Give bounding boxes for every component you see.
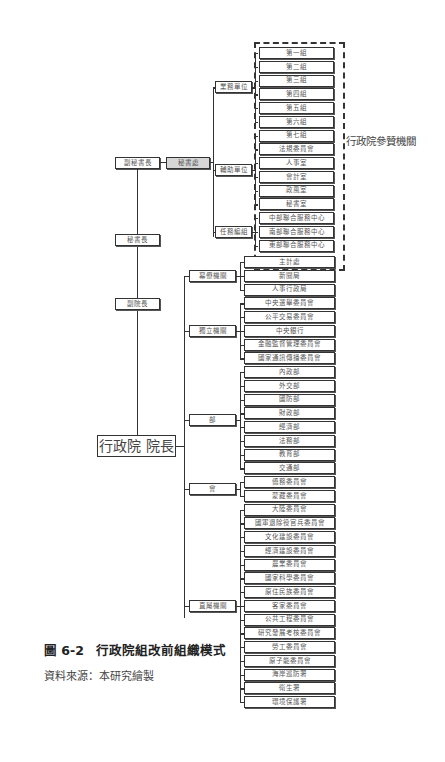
connector bbox=[213, 232, 216, 233]
connector bbox=[184, 276, 189, 277]
connector bbox=[255, 136, 256, 205]
agency-unit[interactable]: 法務部 bbox=[244, 435, 335, 447]
secretary-general-box[interactable]: 秘書長 bbox=[115, 234, 160, 246]
secretariat-unit[interactable]: 第二組 bbox=[259, 61, 334, 73]
connector bbox=[255, 149, 258, 150]
agency-unit[interactable]: 經濟部 bbox=[244, 421, 335, 433]
agency-unit[interactable]: 蒙藏委員會 bbox=[244, 490, 335, 502]
agency-unit[interactable]: 農業委員會 bbox=[244, 559, 335, 571]
vice-premier-box[interactable]: 副院長 bbox=[115, 298, 160, 310]
agency-unit[interactable]: 人事行政局 bbox=[244, 284, 335, 296]
agency-unit[interactable]: 外交部 bbox=[244, 380, 335, 392]
agency-group-0[interactable]: 幕僚機關 bbox=[189, 270, 236, 282]
secretariat-unit[interactable]: 會計室 bbox=[259, 171, 334, 183]
agency-unit[interactable]: 新聞局 bbox=[244, 270, 335, 282]
figure-source: 資料來源：本研究繪製 bbox=[44, 667, 154, 683]
connector bbox=[184, 606, 189, 607]
agency-unit[interactable]: 原住民族委員會 bbox=[244, 586, 335, 598]
secretariat-unit[interactable]: 秘書室 bbox=[259, 198, 334, 210]
connector bbox=[255, 81, 258, 82]
agency-group-3[interactable]: 會 bbox=[189, 483, 236, 495]
connector bbox=[255, 94, 258, 95]
agency-unit[interactable]: 財政部 bbox=[244, 407, 335, 419]
connector bbox=[255, 204, 258, 205]
figure-number: 圖 6-2 bbox=[44, 643, 84, 658]
agency-unit[interactable]: 國家通訊傳播委員會 bbox=[244, 352, 335, 364]
secretariat-box[interactable]: 秘書處 bbox=[166, 157, 210, 169]
secretariat-unit[interactable]: 第三組 bbox=[259, 75, 334, 87]
connector bbox=[255, 232, 258, 233]
connector bbox=[255, 136, 258, 137]
figure-title: 行政院組改前組織模式 bbox=[96, 643, 226, 658]
staff-agencies-label: 行政院參贊機關 bbox=[346, 133, 416, 148]
agency-unit[interactable]: 教育部 bbox=[244, 449, 335, 461]
agency-unit[interactable]: 經濟建設委員會 bbox=[244, 545, 335, 557]
agency-group-1[interactable]: 獨立機關 bbox=[189, 325, 236, 337]
agency-unit[interactable]: 內政部 bbox=[244, 366, 335, 378]
connector bbox=[255, 53, 258, 54]
secretariat-unit[interactable]: 政風室 bbox=[259, 185, 334, 197]
deputy-secretary-general-box[interactable]: 副秘書長 bbox=[115, 157, 160, 169]
secretariat-unit[interactable]: 南部聯合服務中心 bbox=[259, 226, 334, 238]
agency-unit[interactable]: 海岸巡防署 bbox=[244, 669, 335, 681]
connector bbox=[255, 163, 258, 164]
agency-unit[interactable]: 環境保護署 bbox=[244, 696, 335, 708]
connector bbox=[255, 67, 258, 68]
agency-unit[interactable]: 金融監督管理委員會 bbox=[244, 339, 335, 351]
agency-group-2[interactable]: 部 bbox=[189, 414, 236, 426]
connector bbox=[255, 246, 258, 247]
agency-unit[interactable]: 中央選舉委員會 bbox=[244, 297, 335, 309]
agency-unit[interactable]: 客家委員會 bbox=[244, 600, 335, 612]
connector bbox=[213, 88, 214, 237]
agency-unit[interactable]: 交通部 bbox=[244, 462, 335, 474]
agency-unit[interactable]: 衛生署 bbox=[244, 682, 335, 694]
connector bbox=[240, 482, 241, 496]
secretariat-unit[interactable]: 第六組 bbox=[259, 116, 334, 128]
secretariat-unit[interactable]: 第四組 bbox=[259, 88, 334, 100]
agency-unit[interactable]: 僑務委員會 bbox=[244, 476, 335, 488]
agency-unit[interactable]: 公共工程委員會 bbox=[244, 614, 335, 626]
secretariat-unit[interactable]: 第五組 bbox=[259, 102, 334, 114]
secretariat-group-0[interactable]: 業務單位 bbox=[215, 81, 252, 93]
agency-unit[interactable]: 研究發展考核委員會 bbox=[244, 627, 335, 639]
secretariat-group-2[interactable]: 任務編組 bbox=[215, 226, 252, 238]
secretariat-unit[interactable]: 中部聯合服務中心 bbox=[259, 212, 334, 224]
agency-unit[interactable]: 勞工委員會 bbox=[244, 641, 335, 653]
connector bbox=[184, 489, 189, 490]
connector bbox=[255, 177, 258, 178]
secretariat-unit[interactable]: 法規委員會 bbox=[259, 143, 334, 155]
connector bbox=[255, 191, 258, 192]
agency-group-4[interactable]: 直屬機關 bbox=[189, 600, 236, 612]
secretariat-group-1[interactable]: 輔助單位 bbox=[215, 164, 252, 176]
secretariat-unit[interactable]: 第七組 bbox=[259, 130, 334, 142]
connector bbox=[184, 420, 189, 421]
agency-unit[interactable]: 大陸委員會 bbox=[244, 504, 335, 516]
agency-unit[interactable]: 原子能委員會 bbox=[244, 655, 335, 667]
agency-unit[interactable]: 中央銀行 bbox=[244, 325, 335, 337]
connector bbox=[184, 276, 185, 618]
agency-unit[interactable]: 國防部 bbox=[244, 394, 335, 406]
agency-unit[interactable]: 主計處 bbox=[244, 256, 335, 268]
agency-unit[interactable]: 公平交易委員會 bbox=[244, 311, 335, 323]
secretariat-unit[interactable]: 東部聯合服務中心 bbox=[259, 240, 334, 252]
premier-box[interactable]: 行政院 院長 bbox=[97, 435, 176, 457]
connector bbox=[213, 170, 216, 171]
connector bbox=[255, 122, 258, 123]
figure-caption: 圖 6-2行政院組改前組織模式 bbox=[44, 640, 226, 659]
connector bbox=[184, 331, 189, 332]
agency-unit[interactable]: 國家科學委員會 bbox=[244, 572, 335, 584]
connector bbox=[213, 87, 216, 88]
secretariat-unit[interactable]: 第一組 bbox=[259, 47, 334, 59]
secretariat-unit[interactable]: 人事室 bbox=[259, 157, 334, 169]
connector bbox=[255, 53, 256, 122]
connector bbox=[255, 218, 258, 219]
connector bbox=[255, 108, 258, 109]
agency-unit[interactable]: 國軍退除役官兵委員會 bbox=[244, 517, 335, 529]
connector bbox=[176, 446, 184, 447]
agency-unit[interactable]: 文化建設委員會 bbox=[244, 531, 335, 543]
